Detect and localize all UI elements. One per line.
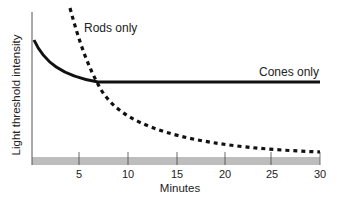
baseline-band bbox=[32, 157, 320, 165]
tick-label-25: 25 bbox=[266, 168, 278, 180]
y-axis-title: Light threshold intensity bbox=[10, 34, 22, 155]
cones-label: Cones only bbox=[259, 65, 319, 79]
tick-label-20: 20 bbox=[219, 168, 231, 180]
tick-label-5: 5 bbox=[76, 168, 82, 180]
tick-label-15: 15 bbox=[171, 168, 183, 180]
x-axis-title: Minutes bbox=[160, 182, 201, 194]
tick-label-30: 30 bbox=[314, 168, 326, 180]
tick-label-10: 10 bbox=[122, 168, 134, 180]
rods-label: Rods only bbox=[84, 21, 137, 35]
dark-adaptation-chart: 5 10 15 20 25 30 Minutes Light threshold… bbox=[0, 0, 337, 202]
x-tick-labels: 5 10 15 20 25 30 bbox=[76, 168, 326, 180]
